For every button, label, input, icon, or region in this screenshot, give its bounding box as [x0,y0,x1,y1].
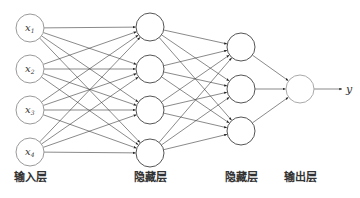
neuron-circle [286,75,314,103]
input-node-1: x1 [16,14,44,42]
neuron-circle [136,96,164,124]
hidden1-node-4 [136,139,164,167]
connection-input-4-to-hidden1-4 [44,152,136,153]
neuron-circle [227,75,255,103]
layer-label-hidden1: 隐藏层 [134,170,167,184]
connection-hidden2-3-to-output-1 [252,97,288,122]
connection-hidden1-4-to-hidden2-2 [161,97,229,145]
connection-hidden1-3-to-hidden2-2 [164,92,227,107]
hidden2-node-1 [227,33,255,61]
connection-hidden2-1-to-output-1 [252,55,288,80]
hidden1-node-2 [136,55,164,83]
connection-hidden1-4-to-hidden2-1 [159,58,231,142]
connection-hidden1-3-to-hidden2-1 [162,55,230,102]
output-label: y [345,83,353,96]
input-node-4: x4 [16,138,44,166]
connection-input-4-to-hidden1-1 [40,37,140,141]
hidden1-node-1 [136,13,164,41]
neural-network-diagram: x1x2x3x4 y输入层隐藏层隐藏层输出层 [0,0,360,198]
neuron-circle [227,33,255,61]
connection-input-1-to-hidden1-1 [44,27,136,28]
hidden1-node-3 [136,96,164,124]
output-node-1 [286,75,314,103]
connection-hidden1-1-to-hidden2-1 [164,30,227,44]
input-node-2: x2 [16,55,44,83]
hidden2-node-3 [227,117,255,145]
hidden2-node-2 [227,75,255,103]
input-node-3: x3 [16,96,44,124]
neuron-circle [136,13,164,41]
connection-input-1-to-hidden1-4 [40,38,140,142]
layer-label-hidden2: 隐藏层 [225,170,258,184]
neuron-circle [136,139,164,167]
nodes: x1x2x3x4 [16,13,314,167]
layer-label-input: 输入层 [14,170,47,184]
neuron-circle [227,117,255,145]
neuron-circle [136,55,164,83]
connection-hidden1-3-to-hidden2-3 [164,113,227,128]
layer-label-output: 输出层 [284,170,317,184]
